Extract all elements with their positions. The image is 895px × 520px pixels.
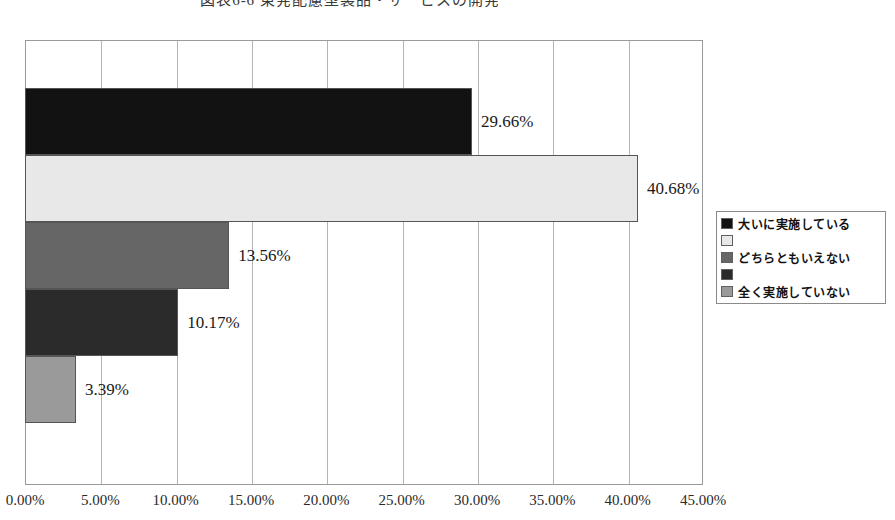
bar-value-label: 3.39% [85, 380, 129, 400]
legend-item[interactable] [721, 266, 881, 283]
x-axis-tick-label: 15.00% [228, 492, 274, 509]
legend-item[interactable]: どちらともいえない [721, 249, 881, 266]
legend-swatch-icon [721, 235, 733, 246]
legend-item-label: 大いに実施している [738, 215, 851, 232]
legend-swatch-icon [721, 252, 733, 263]
x-axis-tick-label: 40.00% [605, 492, 651, 509]
chart-title: 図表6-6 東発配慮型製品・サービスの開発 [0, 0, 700, 8]
legend-swatch-icon [721, 269, 733, 280]
x-axis-tick-labels: 0.00%5.00%10.00%15.00%20.00%25.00%30.00%… [25, 492, 703, 516]
legend-swatch-icon [721, 286, 733, 297]
bar[interactable] [25, 88, 472, 155]
legend-item[interactable] [721, 232, 881, 249]
legend-item[interactable]: 全く実施していない [721, 283, 881, 300]
x-axis-tick-label: 35.00% [529, 492, 575, 509]
x-axis-tick-label: 20.00% [303, 492, 349, 509]
bar-value-label: 40.68% [647, 179, 699, 199]
bar-row[interactable]: 29.66% [25, 88, 703, 155]
legend-swatch-icon [721, 218, 733, 229]
bar[interactable] [25, 356, 76, 423]
x-axis-tick-label: 30.00% [454, 492, 500, 509]
bar-row[interactable]: 10.17% [25, 289, 703, 356]
bar-row[interactable]: 13.56% [25, 222, 703, 289]
x-axis-tick-label: 0.00% [6, 492, 45, 509]
bar-row[interactable]: 3.39% [25, 356, 703, 423]
bar[interactable] [25, 289, 178, 356]
chart-legend: 大いに実施しているどちらともいえない全く実施していない [716, 211, 886, 304]
x-axis-tick-label: 10.00% [153, 492, 199, 509]
bar-value-label: 13.56% [238, 246, 290, 266]
bar[interactable] [25, 222, 229, 289]
bar-value-label: 29.66% [481, 112, 533, 132]
legend-item-label: 全く実施していない [738, 283, 851, 300]
bar[interactable] [25, 155, 638, 222]
legend-item[interactable]: 大いに実施している [721, 215, 881, 232]
bar-value-label: 10.17% [187, 313, 239, 333]
x-axis-tick-label: 5.00% [81, 492, 120, 509]
legend-item-label: どちらともいえない [738, 249, 851, 266]
bar-row[interactable]: 40.68% [25, 155, 703, 222]
x-axis-tick-label: 25.00% [379, 492, 425, 509]
bars-layer: 29.66%40.68%13.56%10.17%3.39% [25, 40, 703, 485]
x-axis-tick-label: 45.00% [680, 492, 726, 509]
